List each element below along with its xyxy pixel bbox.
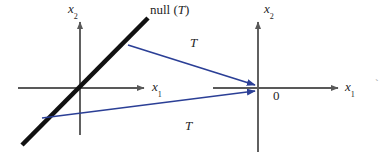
edge-artifact-mark: ˋ <box>375 78 379 89</box>
upper-map-arrow <box>128 45 255 85</box>
right-x-axis-label: x1 <box>345 80 355 97</box>
diagram-canvas <box>0 0 388 164</box>
left-y-axis-label: x2 <box>68 2 78 19</box>
lower-map-label: T <box>185 119 192 132</box>
null-space-line <box>22 18 148 145</box>
right-y-axis-label: x2 <box>264 2 274 19</box>
right-axes <box>213 22 338 152</box>
left-x-axis-label: x1 <box>152 80 162 97</box>
upper-map-label: T <box>190 36 197 49</box>
right-origin-label: 0 <box>273 89 280 102</box>
null-space-label: null (T) <box>150 3 189 16</box>
linear-map-null-space-diagram: x2 x1 null (T) x2 x1 0 T T ˋ <box>0 0 388 164</box>
